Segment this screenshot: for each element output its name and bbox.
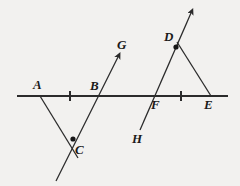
point-label-b: B [90,79,99,92]
point-label-f: F [151,98,160,111]
geometry-figure: A B C D E F G H [0,0,240,186]
point-label-g: G [117,38,126,51]
segment-d-to-e [177,42,211,96]
ray-toward-g [56,57,118,181]
point-label-d: D [164,30,173,43]
point-label-a: A [33,78,42,91]
point-label-e: E [204,98,213,111]
geometry-canvas [0,0,240,186]
point-dot-d [173,44,178,49]
point-dot-c [70,136,75,141]
point-label-c: C [75,143,84,156]
point-label-h: H [132,132,142,145]
